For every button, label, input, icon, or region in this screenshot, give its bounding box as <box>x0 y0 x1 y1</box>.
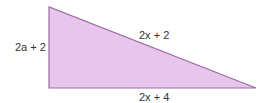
hypotenuse-label: 2x + 2 <box>139 29 169 41</box>
left-side-label: 2a + 2 <box>15 41 46 53</box>
right-triangle <box>49 7 256 88</box>
bottom-side-label: 2x + 4 <box>139 91 169 103</box>
